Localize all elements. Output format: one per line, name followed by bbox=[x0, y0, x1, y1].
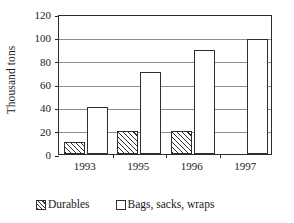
bar bbox=[194, 50, 215, 154]
bar-group bbox=[59, 16, 113, 154]
y-axis-title: Thousand tons bbox=[5, 46, 17, 115]
bar bbox=[87, 107, 108, 154]
x-axis-tick-label: 1993 bbox=[74, 160, 96, 172]
y-axis-title-container: Thousand tons bbox=[0, 0, 22, 160]
x-axis-tick-mark bbox=[166, 154, 167, 158]
bar-group-bars bbox=[59, 16, 113, 154]
chart-legend: DurablesBags, sacks, wraps bbox=[36, 196, 268, 214]
y-axis-tick-label: 40 bbox=[40, 103, 51, 114]
bar bbox=[117, 131, 138, 154]
y-axis-tick-label: 0 bbox=[46, 150, 52, 161]
x-axis-tick-label: 1995 bbox=[127, 160, 149, 172]
bar-chart-figure: Thousand tons 020406080100120 1993199519… bbox=[0, 0, 294, 223]
x-axis-tick-label: 1996 bbox=[181, 160, 203, 172]
y-axis-tick-label: 100 bbox=[35, 33, 52, 44]
legend-item: Durables bbox=[36, 199, 90, 211]
y-axis-tick-label: 80 bbox=[40, 56, 51, 67]
bar-group-bars bbox=[220, 16, 274, 154]
bar-group bbox=[166, 16, 220, 154]
y-axis-tick-label: 20 bbox=[40, 126, 51, 137]
legend-item: Bags, sacks, wraps bbox=[116, 199, 215, 211]
x-axis-tick-labels: 1993199519961997 bbox=[58, 160, 272, 176]
bar bbox=[247, 39, 268, 155]
y-axis-tick-labels: 020406080100120 bbox=[22, 9, 55, 161]
bar bbox=[140, 72, 161, 154]
y-axis-tick-label: 60 bbox=[40, 80, 51, 91]
legend-label: Durables bbox=[48, 199, 90, 211]
bar-group bbox=[113, 16, 167, 154]
bar bbox=[171, 131, 192, 154]
plot-area bbox=[58, 15, 272, 155]
bar-group-bars bbox=[166, 16, 220, 154]
bar-group bbox=[220, 16, 274, 154]
bar-group-bars bbox=[113, 16, 167, 154]
x-axis-tick-label: 1997 bbox=[234, 160, 256, 172]
x-axis-tick-mark bbox=[113, 154, 114, 158]
x-axis-tick-mark bbox=[220, 154, 221, 158]
y-axis-tick-label: 120 bbox=[35, 10, 52, 21]
legend-label: Bags, sacks, wraps bbox=[128, 199, 215, 211]
legend-swatch-empty-icon bbox=[116, 200, 126, 210]
y-axis-tick-mark bbox=[55, 156, 59, 157]
legend-swatch-hatched-icon bbox=[36, 200, 46, 210]
bar bbox=[64, 142, 85, 154]
